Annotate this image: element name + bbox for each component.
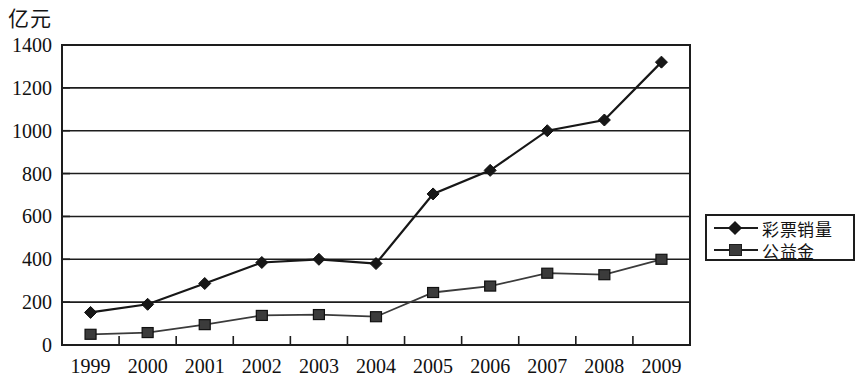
legend-item-welfare-fund: 公益金 [707, 239, 853, 261]
data-point-marker [428, 288, 439, 298]
chart-legend: 彩票销量 公益金 [705, 214, 855, 261]
data-point-marker [542, 268, 553, 278]
plot-frame [62, 45, 690, 345]
data-point-marker [142, 298, 154, 310]
data-point-marker [256, 310, 267, 320]
series-line-welfare-fund [91, 259, 662, 334]
data-point-marker [256, 257, 268, 269]
data-point-marker [313, 253, 325, 265]
data-point-marker [199, 278, 211, 290]
data-point-marker [656, 254, 667, 264]
data-point-marker [599, 270, 610, 280]
series-line-lottery-sales [91, 62, 662, 312]
data-point-marker [485, 281, 496, 291]
legend-label-welfare-fund: 公益金 [762, 238, 815, 263]
plot-area [0, 0, 864, 378]
square-marker-icon [714, 241, 758, 259]
data-point-marker [313, 310, 324, 320]
data-point-marker [85, 306, 97, 318]
data-point-marker [371, 312, 382, 322]
data-point-marker [85, 329, 96, 339]
legend-item-lottery-sales: 彩票销量 [707, 217, 853, 239]
line-chart: 亿元 0200400600800100012001400 19992000200… [0, 0, 864, 378]
diamond-marker-icon [714, 219, 758, 237]
data-point-marker [199, 320, 210, 330]
data-point-marker [142, 328, 153, 338]
